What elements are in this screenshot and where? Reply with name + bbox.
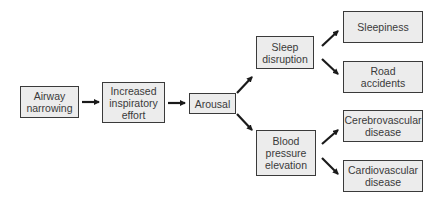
arrow-sleep-disruption-to-sleepiness bbox=[322, 31, 338, 46]
node-airway-narrowing: Airway narrowing bbox=[20, 86, 79, 118]
node-cardiovascular-disease: Cardiovascular disease bbox=[343, 160, 423, 192]
arrow-blood-pressure-to-cerebrovascular bbox=[322, 130, 338, 144]
node-cerebrovascular-disease: Cerebrovascular disease bbox=[343, 110, 423, 142]
arrow-arousal-to-blood-pressure bbox=[237, 114, 252, 130]
arrow-blood-pressure-to-cardiovascular bbox=[322, 158, 338, 174]
node-sleepiness: Sleepiness bbox=[343, 11, 423, 43]
arrow-sleep-disruption-to-road-accidents bbox=[322, 59, 338, 74]
node-increased-inspiratory-effort: Increased inspiratory effort bbox=[102, 82, 165, 123]
arrow-arousal-to-sleep-disruption bbox=[237, 77, 252, 93]
node-arousal: Arousal bbox=[189, 93, 236, 114]
node-road-accidents: Road accidents bbox=[343, 61, 423, 93]
node-sleep-disruption: Sleep disruption bbox=[256, 36, 314, 69]
node-blood-pressure-elevation: Blood pressure elevation bbox=[256, 130, 316, 176]
diagram-canvas: Airway narrowing Increased inspiratory e… bbox=[0, 0, 446, 203]
